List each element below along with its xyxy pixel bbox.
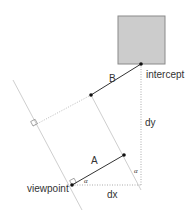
segment-b [91, 64, 141, 95]
segment-a [72, 155, 124, 185]
target-box [118, 16, 165, 64]
segment-a-label: A [91, 155, 98, 166]
a-end-perpendicular-line [91, 95, 141, 190]
dy-label: dy [145, 117, 156, 128]
a-end-dot [122, 153, 126, 157]
b-projection-dotted [33, 95, 91, 126]
diagram-canvas: intercept B A dy dx viewpoint α α [0, 0, 192, 215]
alpha-viewpoint-label: α [84, 177, 88, 185]
intercept-label: intercept [146, 69, 185, 80]
b-start-dot [89, 93, 93, 97]
intercept-dot [139, 62, 143, 66]
segment-b-label: B [109, 73, 116, 84]
dx-label: dx [107, 189, 118, 200]
viewpoint-dot [70, 183, 74, 187]
viewpoint-label: viewpoint [27, 183, 69, 194]
alpha-right-label: α [134, 167, 138, 175]
